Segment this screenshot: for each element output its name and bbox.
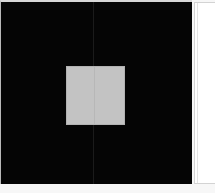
side-panel-content <box>197 3 215 183</box>
selection-rect-seam <box>94 67 95 124</box>
side-panel[interactable] <box>194 2 215 184</box>
selection-rect[interactable] <box>66 66 125 125</box>
canvas-viewport[interactable] <box>0 0 192 184</box>
app-root: Canvas View <box>0 0 215 193</box>
